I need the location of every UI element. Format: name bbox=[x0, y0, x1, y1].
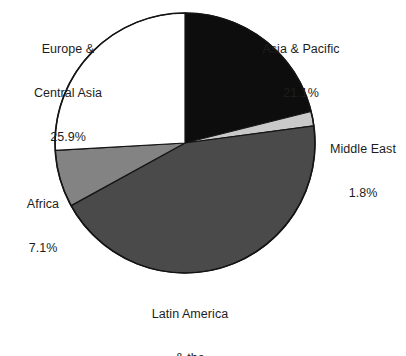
slice-value-middle-east: 1.8% bbox=[320, 186, 406, 201]
slice-label-latin-america-caribbean: Latin America & the Caribbean 44.1% bbox=[128, 278, 252, 356]
slice-label-middle-east: Middle East 1.8% bbox=[320, 113, 406, 230]
slice-label-latin-line2: & the bbox=[128, 351, 252, 356]
slice-label-europe-line1: Europe & bbox=[14, 42, 122, 57]
pie-chart-figure: Europe & Central Asia 25.9% Asia & Pacif… bbox=[0, 0, 406, 356]
slice-label-europe-line2: Central Asia bbox=[14, 86, 122, 101]
slice-label-africa: Africa 7.1% bbox=[10, 168, 76, 285]
slice-label-europe-central-asia: Europe & Central Asia 25.9% bbox=[14, 13, 122, 174]
slice-label-africa-line1: Africa bbox=[10, 197, 76, 212]
slice-label-middle-east-line1: Middle East bbox=[320, 142, 406, 157]
slice-value-africa: 7.1% bbox=[10, 241, 76, 256]
slice-value-asia: 21.1% bbox=[246, 86, 356, 101]
slice-label-latin-line1: Latin America bbox=[128, 307, 252, 322]
slice-label-asia-line1: Asia & Pacific bbox=[246, 42, 356, 57]
slice-value-europe: 25.9% bbox=[14, 130, 122, 145]
